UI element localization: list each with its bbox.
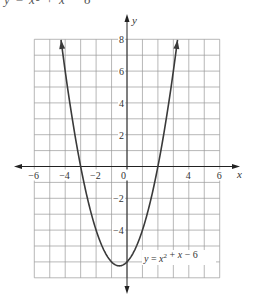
y-tick-label: 2 [119,130,124,141]
parabola-chart: xy −6−4−20468642−2−4 y = x2 + x − 6 [0,0,255,296]
x-tick-label: −4 [59,170,70,181]
y-tick-label: −2 [113,193,124,204]
curve-right-arrow-icon [173,40,179,49]
curve-left-arrow-icon [59,40,65,49]
x-tick-label: 6 [217,170,222,181]
y-axis-down-arrow-icon [125,286,130,294]
x-tick-label: 4 [186,170,191,181]
y-tick-label: −4 [113,225,124,236]
y-tick-label: 6 [119,66,124,77]
x-axis-left-arrow-icon [14,164,22,169]
x-tick-label: −2 [90,170,101,181]
y-axis-up-arrow-icon [125,14,130,22]
y-tick-label: 4 [119,98,124,109]
y-axis-label: y [131,14,137,26]
x-tick-label: −6 [28,170,39,181]
y-tick-label: 8 [119,34,124,45]
function-label-group: y = x2 + x − 6 [142,249,216,265]
x-axis-label: x [236,168,242,180]
x-tick-label: 0 [121,170,126,181]
